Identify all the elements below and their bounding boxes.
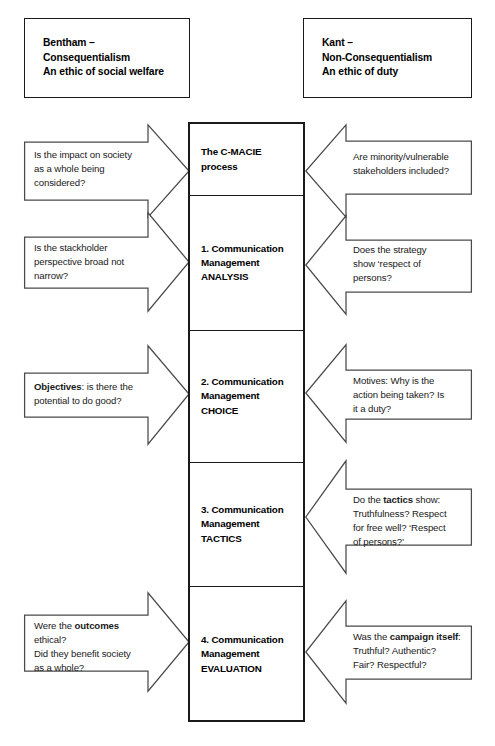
question-arrow-objectives: Objectives: is there thepotential to do … [24, 345, 190, 445]
question-arrow-stackholder-perspective-text: Is the stackholderperspective broad notn… [34, 241, 124, 283]
question-arrow-motives-duty-text: Motives: Why is theaction being taken? I… [353, 374, 444, 416]
process-step-tactics-label: 3. Communication Management TACTICS [190, 503, 289, 546]
question-arrow-tactics-truthfulness: Do the tactics show:Truthfulness? Respec… [305, 460, 472, 574]
header-box-bentham-text: Bentham – Consequentialism An ethic of s… [25, 36, 164, 80]
question-arrow-impact-on-society: Is the impact on societyas a whole being… [24, 124, 190, 218]
question-arrow-respect-of-persons: Does the strategyshow ‘respect ofpersons… [305, 215, 472, 315]
question-arrow-motives-duty: Motives: Why is theaction being taken? I… [305, 344, 472, 443]
question-arrow-impact-on-society-text: Is the impact on societyas a whole being… [34, 148, 132, 190]
question-arrow-outcomes-ethical-text: Were the outcomesethical?Did they benefi… [34, 619, 131, 675]
question-arrow-stackholder-perspective: Is the stackholderperspective broad notn… [24, 212, 190, 312]
process-step-analysis-label: 1. Communication Management ANALYSIS [190, 242, 289, 285]
process-step-evaluation-label: 4. Communication Management EVALUATION [190, 633, 289, 676]
header-box-kant-text: Kant – Non-Consequentialism An ethic of … [304, 36, 432, 80]
process-step-choice-label: 2. Communication Management CHOICE [190, 375, 289, 418]
process-column: The C-MACIE process 1. Communication Man… [188, 122, 305, 722]
question-arrow-campaign-itself: Was the campaign itself:Truthful? Authen… [305, 600, 472, 704]
question-arrow-tactics-truthfulness-text: Do the tactics show:Truthfulness? Respec… [353, 493, 447, 549]
process-step-analysis: 1. Communication Management ANALYSIS [190, 195, 303, 330]
header-box-bentham: Bentham – Consequentialism An ethic of s… [24, 18, 190, 98]
question-arrow-outcomes-ethical: Were the outcomesethical?Did they benefi… [24, 592, 190, 692]
process-step-choice: 2. Communication Management CHOICE [190, 330, 303, 462]
question-arrow-minority-stakeholders-text: Are minority/vulnerablestakeholders incl… [353, 150, 449, 178]
process-step-c-macie: The C-MACIE process [190, 124, 303, 195]
header-box-kant: Kant – Non-Consequentialism An ethic of … [303, 18, 472, 98]
diagram-canvas: Bentham – Consequentialism An ethic of s… [0, 0, 495, 746]
question-arrow-campaign-itself-text: Was the campaign itself:Truthful? Authen… [353, 630, 461, 672]
question-arrow-minority-stakeholders: Are minority/vulnerablestakeholders incl… [305, 124, 472, 218]
process-step-tactics: 3. Communication Management TACTICS [190, 462, 303, 586]
process-step-c-macie-label: The C-MACIE process [190, 145, 266, 173]
question-arrow-respect-of-persons-text: Does the strategyshow ‘respect ofpersons… [353, 243, 427, 285]
process-step-evaluation: 4. Communication Management EVALUATION [190, 586, 303, 722]
question-arrow-objectives-text: Objectives: is there thepotential to do … [34, 380, 133, 408]
